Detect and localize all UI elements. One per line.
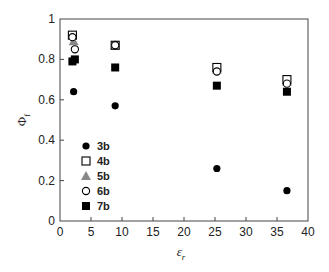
point-6b: [283, 80, 290, 87]
legend-label-6b: 6b: [97, 185, 110, 197]
y-tick-label: 0.8: [38, 52, 55, 66]
point-7b: [283, 88, 291, 96]
legend-label-7b: 7b: [97, 200, 110, 212]
legend-marker-4b: [82, 157, 90, 165]
legend-marker-3b: [82, 142, 89, 149]
x-tick-label: 35: [270, 225, 284, 239]
point-7b: [111, 63, 119, 71]
y-tick-label: 0.2: [38, 174, 55, 188]
x-tick-label: 5: [88, 225, 95, 239]
point-7b: [71, 55, 79, 63]
y-tick-label: 0: [48, 214, 55, 228]
x-tick-label: 25: [208, 225, 222, 239]
point-3b: [213, 165, 220, 172]
legend: 3b4b5b6b7b: [81, 140, 110, 212]
legend-label-3b: 3b: [97, 140, 110, 152]
point-3b: [70, 88, 77, 95]
y-axis-title: Φf: [14, 114, 32, 127]
legend-marker-7b: [82, 202, 90, 210]
x-tick-label: 10: [115, 225, 129, 239]
point-6b: [69, 34, 76, 41]
x-tick-label: 20: [177, 225, 191, 239]
point-3b: [283, 187, 290, 194]
point-7b: [213, 82, 221, 90]
point-3b: [112, 102, 119, 109]
legend-marker-5b: [81, 171, 91, 180]
legend-label-4b: 4b: [97, 155, 110, 167]
scatter-chart: 0510152025303540 00.20.40.60.81 εr Φf 3b…: [0, 0, 329, 272]
x-tick-label: 0: [57, 225, 64, 239]
x-tick-label: 30: [239, 225, 253, 239]
y-tick-label: 1: [48, 12, 55, 26]
y-tick-label: 0.4: [38, 133, 55, 147]
x-tick-label: 15: [146, 225, 160, 239]
point-6b: [213, 68, 220, 75]
x-axis-title: εr: [177, 244, 186, 262]
point-6b: [112, 42, 119, 49]
y-tick-label: 0.6: [38, 93, 55, 107]
point-6b: [71, 46, 78, 53]
x-tick-label: 40: [301, 225, 315, 239]
x-axis-ticks: 0510152025303540: [57, 217, 315, 239]
legend-marker-6b: [82, 187, 89, 194]
legend-label-5b: 5b: [97, 170, 110, 182]
